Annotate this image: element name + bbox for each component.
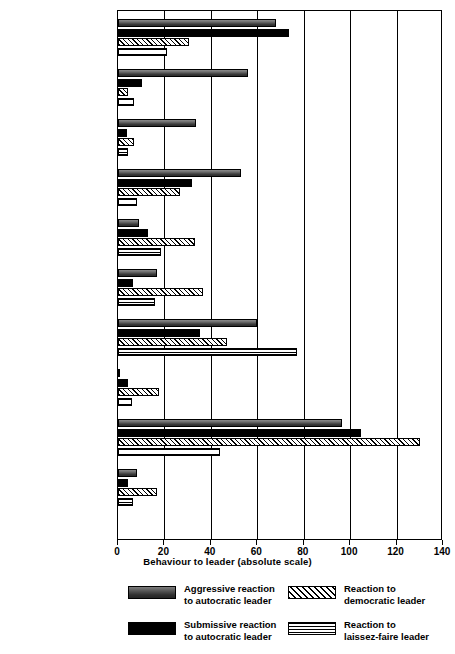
bar-1-3: [118, 179, 192, 187]
bar-1-0: [118, 29, 289, 37]
bar-0-8: [118, 419, 342, 427]
x-tick-0: [117, 540, 118, 545]
bar-group: [118, 469, 441, 506]
legend-label-0: Aggressive reactionto autocratic leader: [184, 583, 275, 606]
legend-swatch-3: [288, 622, 336, 635]
bar-2-1: [118, 88, 128, 96]
bar-3-2: [118, 148, 128, 156]
bar-0-3: [118, 169, 241, 177]
bar-1-8: [118, 429, 361, 437]
bar-group: [118, 169, 441, 206]
bar-2-8: [118, 438, 420, 446]
legend-label-line: laissez-faire leader: [344, 631, 429, 643]
bar-2-2: [118, 138, 134, 146]
bar-1-1: [118, 79, 142, 87]
legend-label-line: democratic leader: [344, 595, 425, 607]
bar-group: [118, 19, 441, 56]
bar-3-9: [118, 498, 133, 506]
legend-label-line: Submissive reaction: [184, 619, 276, 631]
bar-group: [118, 69, 441, 106]
legend-label-line: Reaction to: [344, 583, 425, 595]
x-tick-100: [349, 540, 350, 545]
bar-2-0: [118, 38, 189, 46]
bar-3-8: [118, 448, 220, 456]
legend-swatch-0: [128, 586, 176, 599]
bar-1-4: [118, 229, 148, 237]
bar-0-2: [118, 119, 196, 127]
chart-legend: Aggressive reactionto autocratic leaderR…: [0, 583, 455, 648]
bar-1-6: [118, 329, 200, 337]
x-tick-120: [396, 540, 397, 545]
bar-1-2: [118, 129, 127, 137]
x-axis-ticks: 020406080100120140: [0, 540, 455, 541]
legend-label-line: Reaction to: [344, 619, 429, 631]
bar-group: [118, 219, 441, 256]
bar-3-1: [118, 98, 134, 106]
bar-group: [118, 119, 441, 156]
x-tick-80: [303, 540, 304, 545]
bar-2-4: [118, 238, 195, 246]
chart-plot-area: [117, 10, 442, 540]
bar-0-4: [118, 219, 139, 227]
bar-2-3: [118, 188, 180, 196]
bar-3-0: [118, 48, 167, 56]
bar-2-7: [118, 388, 159, 396]
x-tick-20: [163, 540, 164, 545]
bar-group: [118, 419, 441, 456]
bar-0-0: [118, 19, 276, 27]
legend-label-line: to autocratic leader: [184, 631, 276, 643]
bar-0-1: [118, 69, 248, 77]
bar-2-5: [118, 288, 203, 296]
bar-2-9: [118, 488, 157, 496]
x-tick-40: [210, 540, 211, 545]
bar-2-6: [118, 338, 227, 346]
legend-label-line: Aggressive reaction: [184, 583, 275, 595]
bar-3-6: [118, 348, 297, 356]
bar-1-9: [118, 479, 128, 487]
bar-group: [118, 269, 441, 306]
x-axis-title: Behaviour to leader (absolute scale): [0, 556, 455, 567]
bar-3-3: [118, 198, 137, 206]
bar-3-4: [118, 248, 161, 256]
bar-0-9: [118, 469, 137, 477]
legend-label-line: to autocratic leader: [184, 595, 275, 607]
bar-3-5: [118, 298, 155, 306]
bar-0-5: [118, 269, 157, 277]
legend-label-1: Submissive reactionto autocratic leader: [184, 619, 276, 642]
legend-label-3: Reaction tolaissez-faire leader: [344, 619, 429, 642]
bar-1-7: [118, 379, 128, 387]
bar-1-5: [118, 279, 133, 287]
legend-swatch-2: [288, 586, 336, 599]
legend-swatch-1: [128, 622, 176, 635]
bar-group: [118, 369, 441, 406]
bar-0-6: [118, 319, 257, 327]
bar-0-7: [118, 369, 120, 377]
bar-group: [118, 319, 441, 356]
x-tick-140: [442, 540, 443, 545]
x-tick-60: [256, 540, 257, 545]
bar-3-7: [118, 398, 132, 406]
legend-label-2: Reaction todemocratic leader: [344, 583, 425, 606]
